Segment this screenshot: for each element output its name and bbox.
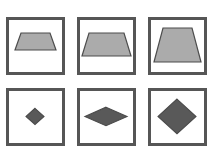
diamond-small-icon	[9, 91, 62, 143]
cell-diamond-large[interactable]	[148, 88, 207, 146]
cell-content-2	[80, 20, 133, 72]
trapezoid-large-icon	[151, 20, 204, 72]
trapezoid-medium-icon	[80, 20, 133, 72]
cell-content-6	[151, 91, 204, 143]
cell-content-1	[9, 20, 62, 72]
diamond-wide-icon	[80, 91, 133, 143]
cell-trapezoid-large[interactable]	[148, 17, 207, 75]
cell-content-3	[151, 20, 204, 72]
cell-diamond-small[interactable]	[6, 88, 65, 146]
shape-grid	[0, 0, 213, 154]
cell-trapezoid-medium[interactable]	[77, 17, 136, 75]
trapezoid-small-icon	[9, 20, 62, 72]
cell-content-5	[80, 91, 133, 143]
diamond-large-icon	[151, 91, 204, 143]
cell-trapezoid-small[interactable]	[6, 17, 65, 75]
cell-diamond-wide[interactable]	[77, 88, 136, 146]
cell-content-4	[9, 91, 62, 143]
